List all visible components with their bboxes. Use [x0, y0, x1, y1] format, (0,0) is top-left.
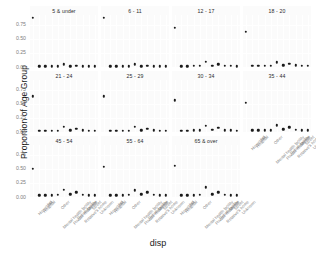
grid-line-vertical: [110, 15, 111, 67]
facet-panel: 45 - 54HomelessHospitalJailMental health…: [30, 136, 98, 197]
grid-line-vertical: [194, 145, 195, 197]
facet-strip-label: 65 & over: [172, 136, 240, 145]
grid-line-vertical: [246, 15, 247, 67]
grid-line-horizontal: [172, 104, 240, 105]
grid-line-horizontal: [101, 39, 169, 40]
grid-line-vertical: [123, 145, 124, 197]
grid-line-vertical: [154, 15, 155, 67]
grid-line-vertical: [225, 80, 226, 132]
facet-strip-label: 18 - 20: [243, 6, 311, 15]
grid-line-vertical: [225, 15, 226, 67]
panel-plot-area: [30, 145, 98, 197]
grid-line-horizontal: [101, 104, 169, 105]
grid-line-vertical: [308, 80, 309, 132]
grid-line-vertical: [160, 80, 161, 132]
panel-plot-area: [172, 15, 240, 67]
grid-line-vertical: [181, 15, 182, 67]
grid-line-vertical: [252, 15, 253, 67]
grid-line-vertical: [58, 145, 59, 197]
grid-line-horizontal: [243, 39, 311, 40]
facet-strip-label: 5 & under: [30, 6, 98, 15]
grid-line-vertical: [70, 15, 71, 67]
grid-line-vertical: [64, 80, 65, 132]
x-axis-title: disp: [0, 238, 316, 248]
y-tick-label: 0.25: [2, 180, 26, 185]
grid-line-vertical: [271, 15, 272, 67]
grid-line-horizontal: [101, 183, 169, 184]
grid-line-horizontal: [30, 118, 98, 119]
panel-plot-area: [243, 80, 311, 132]
grid-line-vertical: [212, 15, 213, 67]
grid-line-vertical: [283, 15, 284, 67]
grid-line-vertical: [39, 15, 40, 67]
grid-line-vertical: [302, 15, 303, 67]
grid-line-vertical: [135, 80, 136, 132]
facet-panel: 30 - 34: [172, 71, 240, 132]
grid-line-vertical: [45, 15, 46, 67]
grid-line-vertical: [289, 15, 290, 67]
grid-line-vertical: [154, 80, 155, 132]
grid-line-vertical: [116, 145, 117, 197]
y-tick-label: 0.50: [2, 101, 26, 106]
facet-strip-label: 12 - 17: [172, 6, 240, 15]
y-axis-title: Proportion of Age Group: [19, 42, 29, 182]
grid-line-vertical: [194, 15, 195, 67]
y-tick-label: 0.75: [2, 87, 26, 92]
grid-line-vertical: [258, 80, 259, 132]
grid-line-horizontal: [172, 118, 240, 119]
grid-line-vertical: [33, 15, 34, 67]
grid-line-vertical: [89, 80, 90, 132]
panel-plot-area: [30, 15, 98, 67]
grid-line-vertical: [187, 80, 188, 132]
grid-line-vertical: [95, 80, 96, 132]
grid-line-horizontal: [30, 132, 98, 133]
grid-line-vertical: [129, 80, 130, 132]
grid-line-horizontal: [30, 169, 98, 170]
grid-line-vertical: [95, 15, 96, 67]
grid-line-vertical: [89, 15, 90, 67]
grid-line-vertical: [76, 145, 77, 197]
grid-line-vertical: [212, 145, 213, 197]
facet-panel: 21 - 24: [30, 71, 98, 132]
grid-line-vertical: [166, 145, 167, 197]
grid-line-vertical: [110, 145, 111, 197]
grid-line-horizontal: [243, 67, 311, 68]
grid-line-horizontal: [30, 104, 98, 105]
grid-line-horizontal: [101, 155, 169, 156]
grid-line-vertical: [52, 15, 53, 67]
y-tick-label: 0.00: [2, 195, 26, 200]
grid-line-vertical: [218, 15, 219, 67]
x-axis-tick-labels: HomelessHospitalJailMental health facili…: [172, 197, 240, 231]
grid-line-horizontal: [172, 39, 240, 40]
grid-line-vertical: [237, 15, 238, 67]
grid-line-vertical: [166, 15, 167, 67]
grid-line-vertical: [160, 145, 161, 197]
grid-line-horizontal: [243, 25, 311, 26]
grid-line-vertical: [154, 145, 155, 197]
facet-strip-label: 21 - 24: [30, 71, 98, 80]
panel-plot-area: [101, 80, 169, 132]
grid-line-vertical: [141, 15, 142, 67]
panel-plot-area: [243, 15, 311, 67]
grid-line-vertical: [52, 80, 53, 132]
grid-line-vertical: [95, 145, 96, 197]
grid-line-horizontal: [172, 132, 240, 133]
grid-line-vertical: [116, 15, 117, 67]
grid-line-vertical: [200, 145, 201, 197]
grid-line-vertical: [160, 15, 161, 67]
grid-line-vertical: [129, 145, 130, 197]
grid-line-horizontal: [172, 90, 240, 91]
grid-line-vertical: [104, 145, 105, 197]
grid-line-vertical: [237, 80, 238, 132]
grid-line-vertical: [212, 80, 213, 132]
y-tick-label: 0.25: [2, 50, 26, 55]
panel-plot-area: [30, 80, 98, 132]
grid-line-vertical: [147, 145, 148, 197]
grid-line-vertical: [252, 80, 253, 132]
grid-line-horizontal: [30, 183, 98, 184]
grid-line-vertical: [231, 80, 232, 132]
grid-line-horizontal: [30, 25, 98, 26]
grid-line-horizontal: [172, 53, 240, 54]
grid-line-vertical: [271, 80, 272, 132]
grid-line-vertical: [296, 80, 297, 132]
